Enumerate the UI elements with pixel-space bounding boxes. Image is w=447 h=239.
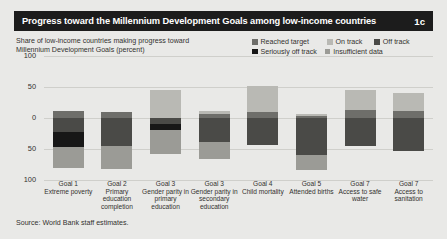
- bar-segment-reached-target: [393, 111, 424, 118]
- subtitle-line-2: Millennium Development Goals (percent): [16, 46, 251, 55]
- x-axis-name-7: Access to safe water: [336, 188, 385, 203]
- x-axis-name-3: Gender parity in primary education: [141, 188, 190, 211]
- bar-segment-reached-target: [53, 111, 84, 118]
- x-axis-name-1: Extreme poverty: [44, 188, 93, 196]
- bar-group-3[interactable]: [150, 56, 181, 180]
- bar-series-layer: [44, 56, 433, 180]
- bar-group-5[interactable]: [247, 56, 278, 180]
- plot-area: [44, 56, 433, 180]
- y-axis-tick-0: 100: [10, 52, 36, 60]
- x-axis-label-6: Goal 5Attended births: [287, 180, 336, 195]
- x-axis-name-6: Attended births: [287, 188, 336, 196]
- x-axis-label-7: Goal 7Access to safe water: [336, 180, 385, 203]
- legend-item-seriously-off-track: Seriously off track: [252, 48, 317, 56]
- x-axis-goal-1: Goal 1: [44, 180, 93, 188]
- bar-segment-on-track: [199, 111, 230, 114]
- x-axis-goal-6: Goal 5: [287, 180, 336, 188]
- legend-swatch-seriously-off-track: [252, 49, 258, 55]
- bar-segment-on-track: [393, 93, 424, 112]
- x-axis-name-5: Child mortality: [239, 188, 288, 196]
- bar-segment-insufficient-data: [296, 155, 327, 171]
- x-axis-goal-8: Goal 7: [384, 180, 433, 188]
- legend-row-1: Reached target On track Off track: [252, 38, 437, 48]
- legend-label-seriously-off-track: Seriously off track: [261, 48, 317, 56]
- x-axis-name-2: Primary education completion: [93, 188, 142, 211]
- x-axis-goal-7: Goal 7: [336, 180, 385, 188]
- bar-segment-on-track: [345, 90, 376, 110]
- legend-label-insufficient-data: Insufficient data: [333, 48, 383, 56]
- y-axis-tick-4: 100: [10, 176, 36, 184]
- legend-swatch-off-track: [374, 39, 380, 45]
- bar-segment-insufficient-data: [53, 147, 84, 169]
- y-axis-tick-2: 0: [10, 114, 36, 122]
- bar-segment-insufficient-data: [150, 130, 181, 154]
- legend-label-on-track: On track: [336, 38, 363, 46]
- bar-segment-off-track: [199, 118, 230, 142]
- legend-item-reached-target: Reached target: [252, 38, 309, 46]
- legend-item-on-track: On track: [327, 38, 362, 46]
- bar-segment-on-track: [247, 86, 278, 112]
- bar-segment-on-track: [296, 114, 327, 116]
- bar-segment-off-track: [345, 118, 376, 146]
- source-note: Source: World Bank staff estimates.: [16, 219, 129, 227]
- legend-swatch-reached-target: [252, 39, 258, 45]
- legend-item-insufficient-data: Insufficient data: [325, 48, 383, 56]
- bar-segment-off-track: [101, 118, 132, 146]
- y-axis-tick-labels: 10050050100: [0, 56, 40, 180]
- chart-subtitle: Share of low-income countries making pro…: [16, 37, 251, 55]
- bar-segment-off-track: [296, 118, 327, 155]
- x-axis-name-8: Access to sanitation: [384, 188, 433, 203]
- bar-group-8[interactable]: [393, 56, 424, 180]
- bar-segment-off-track: [247, 118, 278, 145]
- bar-segment-seriously-off-track: [53, 132, 84, 147]
- x-axis-goal-2: Goal 2: [93, 180, 142, 188]
- x-axis-label-3: Goal 3Gender parity in primary education: [141, 180, 190, 210]
- x-axis-goal-3: Goal 3: [141, 180, 190, 188]
- bar-segment-insufficient-data: [199, 142, 230, 159]
- bar-group-1[interactable]: [53, 56, 84, 180]
- bar-segment-off-track: [393, 118, 424, 151]
- bar-group-7[interactable]: [345, 56, 376, 180]
- x-axis-goal-4: Goal 3: [190, 180, 239, 188]
- bar-group-2[interactable]: [101, 56, 132, 180]
- y-axis-tick-1: 50: [10, 83, 36, 91]
- x-axis-label-5: Goal 4Child mortality: [239, 180, 288, 195]
- figure-panel: Progress toward the Millennium Developme…: [0, 0, 447, 239]
- x-axis-label-4: Goal 3Gender parity in secondary educati…: [190, 180, 239, 210]
- bar-segment-on-track: [150, 90, 181, 118]
- figure-number: 1c: [414, 16, 425, 27]
- page-title: Progress toward the Millennium Developme…: [22, 16, 406, 26]
- bar-segment-insufficient-data: [101, 146, 132, 170]
- bar-group-6[interactable]: [296, 56, 327, 180]
- bar-group-4[interactable]: [199, 56, 230, 180]
- subtitle-line-1: Share of low-income countries making pro…: [16, 37, 251, 46]
- y-axis-tick-3: 50: [10, 145, 36, 153]
- legend-swatch-on-track: [327, 39, 333, 45]
- x-axis-label-1: Goal 1Extreme poverty: [44, 180, 93, 195]
- x-axis-label-2: Goal 2Primary education completion: [93, 180, 142, 210]
- legend-swatch-insufficient-data: [325, 49, 331, 55]
- bar-segment-reached-target: [345, 110, 376, 118]
- chart-legend: Reached target On track Off track Seriou…: [252, 38, 437, 57]
- legend-label-off-track: Off track: [383, 38, 410, 46]
- bar-segment-off-track: [53, 118, 84, 132]
- figure-title-bar: Progress toward the Millennium Developme…: [14, 11, 433, 31]
- x-axis-goal-5: Goal 4: [239, 180, 288, 188]
- legend-label-reached-target: Reached target: [261, 38, 310, 46]
- legend-item-off-track: Off track: [374, 38, 409, 46]
- x-axis-category-labels: Goal 1Extreme povertyGoal 2Primary educa…: [44, 180, 433, 220]
- x-axis-label-8: Goal 7Access to sanitation: [384, 180, 433, 203]
- x-axis-name-4: Gender parity in secondary education: [190, 188, 239, 211]
